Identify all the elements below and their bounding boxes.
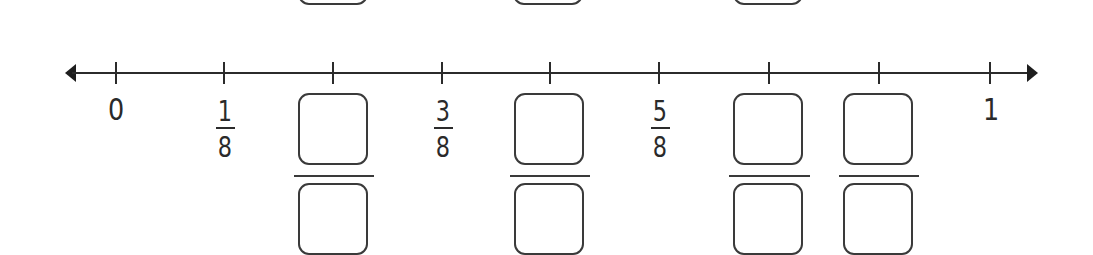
fraction-bar-4-8: [510, 175, 590, 177]
tick-3-8: [441, 62, 443, 84]
numerator: 1: [218, 98, 232, 126]
denominator: 8: [218, 134, 232, 162]
tick-6-8: [768, 62, 770, 84]
numerator: 3: [436, 98, 450, 126]
fraction-bar-2-8: [294, 175, 374, 177]
fraction-bar-7-8: [839, 175, 919, 177]
numerator: 5: [653, 98, 667, 126]
numerator-answer-box-7-8[interactable]: [843, 93, 913, 165]
numerator-answer-box-6-8[interactable]: [733, 93, 803, 165]
fraction-bar-6-8: [729, 175, 810, 177]
tick-1: [989, 62, 991, 84]
label-one-eighth: 1 8: [214, 98, 236, 162]
tick-2-8: [332, 62, 334, 84]
number-line-axis: [72, 72, 1030, 74]
tick-0: [115, 62, 117, 84]
label-zero: 0: [108, 92, 124, 126]
tick-1-8: [223, 62, 225, 84]
label-three-eighths: 3 8: [432, 98, 454, 162]
top-partial-box-2: [513, 0, 583, 5]
tick-5-8: [658, 62, 660, 84]
numerator-answer-box-4-8[interactable]: [514, 93, 584, 165]
tick-7-8: [878, 62, 880, 84]
top-partial-box-3: [733, 0, 803, 5]
denominator-answer-box-4-8[interactable]: [514, 183, 584, 255]
arrow-right-icon: [1027, 64, 1038, 82]
label-five-eighths: 5 8: [649, 98, 671, 162]
top-partial-box-1: [298, 0, 368, 5]
denominator-answer-box-6-8[interactable]: [733, 183, 803, 255]
numerator-answer-box-2-8[interactable]: [298, 93, 368, 165]
denominator: 8: [653, 134, 667, 162]
tick-4-8: [549, 62, 551, 84]
denominator-answer-box-2-8[interactable]: [298, 183, 368, 255]
label-one: 1: [983, 92, 999, 126]
denominator-answer-box-7-8[interactable]: [843, 183, 913, 255]
denominator: 8: [436, 134, 450, 162]
